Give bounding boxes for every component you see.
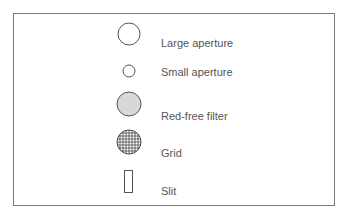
grid-circle-icon — [114, 127, 144, 157]
legend-item-large-aperture: Large aperture — [0, 19, 346, 49]
small-circle-icon — [114, 56, 144, 86]
legend-label: Grid — [161, 147, 182, 159]
legend-label: Large aperture — [161, 37, 233, 49]
legend-item-small-aperture: Small aperture — [0, 56, 346, 86]
legend-label: Small aperture — [161, 66, 233, 78]
large-circle-icon — [114, 19, 144, 49]
legend-label: Slit — [161, 185, 176, 197]
legend-item-slit: Slit — [0, 166, 346, 196]
filled-circle-icon — [114, 89, 144, 119]
legend-item-red-free-filter: Red-free filter — [0, 89, 346, 119]
legend-label: Red-free filter — [161, 110, 228, 122]
legend-item-grid: Grid — [0, 127, 346, 157]
rectangle-icon — [114, 166, 144, 196]
